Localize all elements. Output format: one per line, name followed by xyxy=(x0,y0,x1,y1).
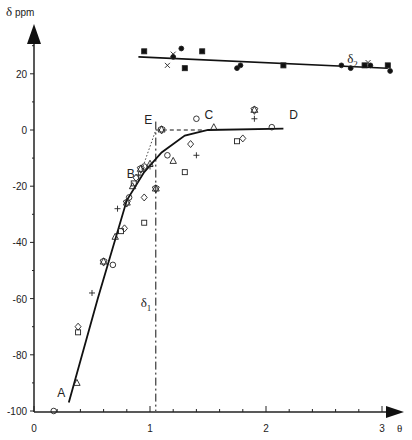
y-tick-label: -40 xyxy=(13,237,28,248)
data-point xyxy=(235,139,240,144)
data-point xyxy=(238,63,243,68)
annotations: ABCDEδ1δ2 xyxy=(57,51,358,400)
y-tick-label: -100 xyxy=(7,406,27,417)
y-tick-label: -60 xyxy=(13,294,28,305)
x-tick-label: 3 xyxy=(379,423,385,434)
data-point xyxy=(200,49,205,54)
x-tick-label: 2 xyxy=(263,423,269,434)
annotation-label: δ1 xyxy=(141,295,152,313)
data-point xyxy=(251,116,257,122)
data-point xyxy=(89,290,95,296)
x-axis: θ 0123 xyxy=(31,406,404,434)
data-point xyxy=(388,69,393,74)
data-point xyxy=(142,49,147,54)
x-axis-label: θ xyxy=(397,422,402,434)
y-axis-arrow-icon xyxy=(27,24,41,44)
y-axis: δ ppm 200-20-40-60-80-100 xyxy=(6,4,41,417)
y-tick-label: -80 xyxy=(13,350,28,361)
data-point xyxy=(193,152,199,158)
data-point xyxy=(339,63,344,68)
data-point xyxy=(75,323,81,330)
data-point xyxy=(182,66,187,71)
x-tick-label: 0 xyxy=(31,423,37,434)
data-point xyxy=(194,116,200,122)
data-point xyxy=(385,63,390,68)
data-points xyxy=(51,46,393,414)
data-point xyxy=(141,194,147,201)
data-point xyxy=(171,55,176,60)
y-tick-label: -20 xyxy=(13,181,28,192)
data-point xyxy=(158,126,165,134)
annotation-label: C xyxy=(205,108,214,122)
data-point xyxy=(110,262,116,268)
data-point xyxy=(182,170,187,175)
x-tick-label: 1 xyxy=(147,423,153,434)
data-point xyxy=(165,63,170,68)
y-tick-label: 0 xyxy=(21,125,27,136)
data-point xyxy=(368,63,373,68)
annotation-label: B xyxy=(127,167,135,181)
data-point xyxy=(362,63,367,68)
y-tick-label: 20 xyxy=(16,69,28,80)
annotation-label: E xyxy=(144,113,152,127)
annotation-label: A xyxy=(57,386,65,400)
data-point xyxy=(251,106,258,114)
data-point xyxy=(179,46,184,51)
data-point xyxy=(142,220,147,225)
x-axis-arrow-icon xyxy=(386,406,404,418)
data-point xyxy=(281,63,286,68)
data-point xyxy=(170,157,176,163)
data-point xyxy=(211,124,217,130)
annotation-label: D xyxy=(289,108,298,122)
chart: δ ppm 200-20-40-60-80-100 θ 0123 ABCDEδ1… xyxy=(0,0,412,440)
data-point xyxy=(51,408,57,414)
data-point xyxy=(165,152,171,158)
data-point xyxy=(188,141,194,148)
data-point xyxy=(240,135,246,142)
y-axis-label-unit: ppm xyxy=(15,7,34,18)
data-point xyxy=(100,258,107,266)
fit-lines xyxy=(69,57,388,411)
y-axis-label-delta: δ xyxy=(6,4,12,19)
data-point xyxy=(115,206,121,212)
fit-line xyxy=(69,129,284,403)
